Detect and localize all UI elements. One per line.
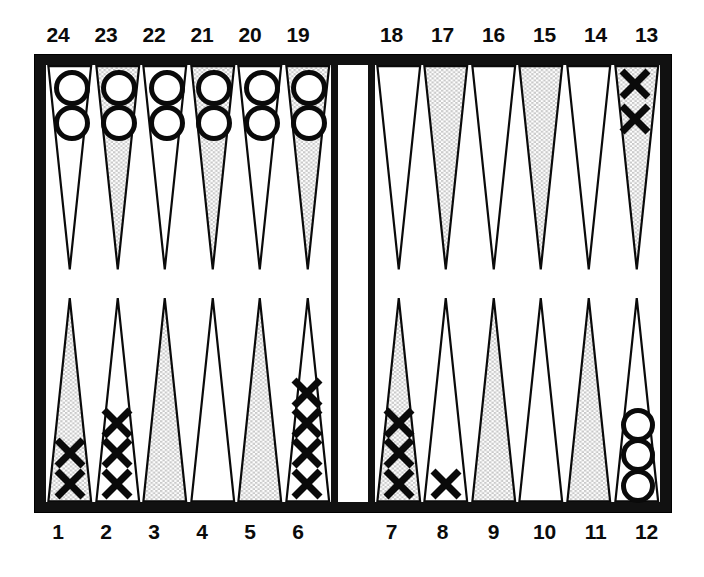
- point-label-1: 1: [34, 517, 82, 547]
- point-label-7: 7: [366, 517, 417, 547]
- bottom-left-label-group: 1 2 3 4 5 6: [34, 517, 322, 547]
- point-15[interactable]: [517, 65, 565, 284]
- point-label-9: 9: [468, 517, 519, 547]
- point-triangle-shaded: [375, 297, 423, 502]
- backgammon-board-figure: 24 23 22 21 20 19 18 17 16 15 14 13: [0, 0, 704, 577]
- point-label-23: 23: [82, 20, 130, 50]
- point-triangle-shaded: [470, 297, 518, 502]
- top-right-label-group: 18 17 16 15 14 13: [366, 20, 672, 50]
- top-label-bar-gap: [322, 20, 366, 50]
- point-triangle-white: [284, 297, 332, 502]
- point-triangle-white: [236, 65, 284, 270]
- point-6[interactable]: [284, 284, 332, 503]
- point-9[interactable]: [470, 284, 518, 503]
- quadrant-top-right: [375, 65, 660, 284]
- point-triangle-shaded: [565, 297, 613, 502]
- point-label-12: 12: [621, 517, 672, 547]
- point-label-18: 18: [366, 20, 417, 50]
- point-label-13: 13: [621, 20, 672, 50]
- point-2[interactable]: [94, 284, 142, 503]
- point-label-14: 14: [570, 20, 621, 50]
- point-3[interactable]: [141, 284, 189, 503]
- point-13[interactable]: [613, 65, 661, 284]
- point-triangle-shaded: [94, 65, 142, 270]
- point-triangle-shaded: [236, 297, 284, 502]
- point-17[interactable]: [422, 65, 470, 284]
- point-label-8: 8: [417, 517, 468, 547]
- point-24[interactable]: [46, 65, 94, 284]
- board-frame: [34, 54, 672, 513]
- point-triangle-white: [46, 65, 94, 270]
- board-right-half: [375, 65, 660, 502]
- center-bar: [331, 65, 375, 502]
- point-triangle-shaded: [422, 65, 470, 270]
- point-1[interactable]: [46, 284, 94, 503]
- point-label-3: 3: [130, 517, 178, 547]
- point-triangle-white: [94, 297, 142, 502]
- point-label-17: 17: [417, 20, 468, 50]
- point-23[interactable]: [94, 65, 142, 284]
- top-point-label-row: 24 23 22 21 20 19 18 17 16 15 14 13: [34, 20, 672, 50]
- point-label-15: 15: [519, 20, 570, 50]
- point-5[interactable]: [236, 284, 284, 503]
- point-triangle-white: [517, 297, 565, 502]
- point-19[interactable]: [284, 65, 332, 284]
- point-triangle-shaded: [517, 65, 565, 270]
- point-triangle-white: [613, 297, 661, 502]
- point-18[interactable]: [375, 65, 423, 284]
- point-triangle-shaded: [46, 297, 94, 502]
- point-label-11: 11: [570, 517, 621, 547]
- point-label-21: 21: [178, 20, 226, 50]
- bottom-label-bar-gap: [322, 517, 366, 547]
- board-left-half: [46, 65, 331, 502]
- point-label-22: 22: [130, 20, 178, 50]
- quadrant-top-left: [46, 65, 331, 284]
- point-16[interactable]: [470, 65, 518, 284]
- point-triangle-white: [189, 297, 237, 502]
- point-label-5: 5: [226, 517, 274, 547]
- point-label-6: 6: [274, 517, 322, 547]
- point-label-10: 10: [519, 517, 570, 547]
- bottom-right-label-group: 7 8 9 10 11 12: [366, 517, 672, 547]
- point-22[interactable]: [141, 65, 189, 284]
- point-12[interactable]: [613, 284, 661, 503]
- point-label-4: 4: [178, 517, 226, 547]
- point-triangle-white: [141, 65, 189, 270]
- point-11[interactable]: [565, 284, 613, 503]
- point-triangle-white: [565, 65, 613, 270]
- point-triangle-white: [422, 297, 470, 502]
- top-left-label-group: 24 23 22 21 20 19: [34, 20, 322, 50]
- point-4[interactable]: [189, 284, 237, 503]
- point-10[interactable]: [517, 284, 565, 503]
- point-triangle-white: [375, 65, 423, 270]
- point-triangle-shaded: [284, 65, 332, 270]
- board-surface: [46, 65, 660, 502]
- point-triangle-white: [470, 65, 518, 270]
- point-21[interactable]: [189, 65, 237, 284]
- point-14[interactable]: [565, 65, 613, 284]
- point-label-24: 24: [34, 20, 82, 50]
- quadrant-bottom-right: [375, 284, 660, 503]
- point-triangle-shaded: [189, 65, 237, 270]
- point-label-16: 16: [468, 20, 519, 50]
- bottom-point-label-row: 1 2 3 4 5 6 7 8 9 10 11 12: [34, 517, 672, 547]
- point-triangle-shaded: [141, 297, 189, 502]
- point-triangle-shaded: [613, 65, 661, 270]
- quadrant-bottom-left: [46, 284, 331, 503]
- point-8[interactable]: [422, 284, 470, 503]
- point-label-20: 20: [226, 20, 274, 50]
- point-7[interactable]: [375, 284, 423, 503]
- point-20[interactable]: [236, 65, 284, 284]
- point-label-2: 2: [82, 517, 130, 547]
- point-label-19: 19: [274, 20, 322, 50]
